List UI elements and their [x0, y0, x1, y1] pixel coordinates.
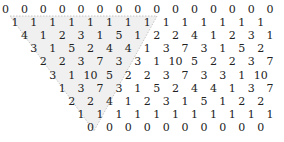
frieze-entry: 0: [223, 3, 242, 16]
frieze-entry: 0: [15, 3, 34, 16]
frieze-entry: 3: [194, 69, 213, 82]
frieze-entry: 0: [251, 121, 270, 134]
frieze-entry: 4: [100, 42, 119, 55]
frieze-entry: 1: [119, 16, 138, 29]
frieze-entry: 1: [223, 82, 242, 95]
frieze-entry: 7: [261, 55, 280, 68]
frieze-entry: 1: [185, 108, 204, 121]
frieze-entry: 1: [24, 16, 43, 29]
frieze-entry: 2: [251, 95, 270, 108]
frieze-entry: 2: [223, 29, 242, 42]
frieze-entry: 0: [147, 3, 166, 16]
frieze-entry: 0: [34, 3, 53, 16]
frieze-entry: 2: [147, 29, 166, 42]
frieze-entry: 0: [109, 3, 128, 16]
frieze-entry: 4: [185, 82, 204, 95]
frieze-entry: 2: [34, 55, 53, 68]
frieze-entry: 2: [53, 29, 72, 42]
frieze-entry: 4: [185, 29, 204, 42]
frieze-entry: 3: [128, 55, 147, 68]
frieze-entry: 3: [72, 55, 91, 68]
frieze-entry: 0: [185, 3, 204, 16]
frieze-entry: 0: [119, 121, 138, 134]
frieze-entry: 3: [43, 69, 62, 82]
frieze-entry: 1: [62, 16, 81, 29]
frieze-entry: 3: [242, 82, 261, 95]
frieze-entry: 1: [91, 108, 110, 121]
frieze-entry: 0: [242, 3, 261, 16]
frieze-entry: 2: [138, 69, 157, 82]
frieze-entry: 1: [138, 42, 157, 55]
frieze-entry: 0: [204, 3, 223, 16]
frieze-entry: 1: [157, 16, 176, 29]
frieze-entry: 5: [100, 69, 119, 82]
frieze-entry: 0: [176, 121, 195, 134]
frieze-entry: 5: [232, 42, 251, 55]
frieze-entry: 5: [109, 29, 128, 42]
frieze-entry: 1: [138, 16, 157, 29]
frieze-entry: 2: [251, 42, 270, 55]
frieze-entry: 1: [53, 82, 72, 95]
frieze-entry: 1: [204, 29, 223, 42]
frieze-entry: 0: [213, 121, 232, 134]
frieze-entry: 0: [53, 3, 72, 16]
frieze-entry: 1: [213, 16, 232, 29]
frieze-entry: 2: [138, 95, 157, 108]
frieze-entry: 1: [128, 29, 147, 42]
frieze-entry: 4: [100, 95, 119, 108]
frieze-entry: 1: [34, 29, 53, 42]
frieze-entry: 3: [157, 42, 176, 55]
frieze-entry: 1: [251, 16, 270, 29]
frieze-entry: 1: [213, 42, 232, 55]
frieze-entry: 1: [62, 69, 81, 82]
frieze-entry: 1: [81, 16, 100, 29]
frieze-entry: 1: [232, 16, 251, 29]
frieze-entry: 1: [261, 108, 280, 121]
frieze-entry: 7: [91, 82, 110, 95]
frieze-entry: 0: [138, 121, 157, 134]
frieze-entry: 1: [147, 55, 166, 68]
frieze-entry: 1: [232, 69, 251, 82]
frieze-entry: 3: [213, 69, 232, 82]
frieze-entry: 10: [166, 55, 185, 68]
frieze-entry: 1: [147, 108, 166, 121]
frieze-entry: 3: [109, 82, 128, 95]
frieze-entry: 5: [62, 42, 81, 55]
frieze-entry: 1: [176, 16, 195, 29]
frieze-entry: 2: [119, 69, 138, 82]
frieze-entry: 2: [232, 95, 251, 108]
frieze-entry: 4: [204, 82, 223, 95]
frieze-entry: 5: [185, 55, 204, 68]
frieze-entry: 1: [100, 16, 119, 29]
frieze-entry: 0: [194, 121, 213, 134]
frieze-pattern: 0000000000000001111111111111141231512241…: [0, 0, 284, 142]
frieze-entry: 2: [81, 95, 100, 108]
frieze-entry: 1: [72, 108, 91, 121]
frieze-entry: 1: [128, 108, 147, 121]
frieze-entry: 3: [157, 95, 176, 108]
frieze-entry: 1: [242, 108, 261, 121]
frieze-entry: 7: [176, 69, 195, 82]
frieze-entry: 0: [0, 3, 15, 16]
frieze-entry: 1: [128, 82, 147, 95]
frieze-entry: 1: [194, 16, 213, 29]
frieze-entry: 7: [261, 82, 280, 95]
frieze-entry: 2: [62, 95, 81, 108]
frieze-entry: 1: [119, 95, 138, 108]
frieze-entry: 2: [53, 55, 72, 68]
frieze-entry: 1: [166, 108, 185, 121]
frieze-entry: 2: [223, 55, 242, 68]
frieze-entry: 0: [261, 3, 280, 16]
frieze-entry: 1: [261, 29, 280, 42]
frieze-entry: 3: [109, 55, 128, 68]
frieze-entry: 3: [242, 29, 261, 42]
frieze-entry: 4: [119, 42, 138, 55]
frieze-entry: 1: [223, 108, 242, 121]
frieze-entry: 1: [204, 108, 223, 121]
frieze-entry: 3: [242, 55, 261, 68]
frieze-entry: 7: [91, 55, 110, 68]
frieze-entry: 5: [194, 95, 213, 108]
frieze-entry: 0: [232, 121, 251, 134]
frieze-entry: 0: [128, 3, 147, 16]
frieze-entry: 3: [194, 42, 213, 55]
